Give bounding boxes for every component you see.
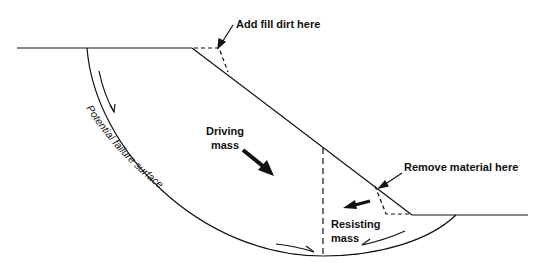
fill-wedge-dashed (194, 48, 228, 72)
failure-surface-text: Potential failure surface (84, 103, 166, 191)
driving-mass-label-line2: mass (211, 139, 239, 151)
remove-material-label: Remove material here (404, 161, 518, 173)
failure-arc (87, 48, 456, 256)
add-fill-label: Add fill dirt here (236, 18, 320, 30)
failure-surface-label: Potential failure surface (84, 103, 166, 191)
arc-arrow-right-icon (362, 231, 405, 245)
remove-material-arrowhead-icon (379, 181, 388, 188)
driving-arrow-icon (243, 150, 274, 176)
resisting-mass-label-line1: Resisting (331, 218, 381, 230)
removal-wedge-dashed (375, 186, 412, 214)
driving-mass-label-line1: Driving (206, 125, 244, 137)
resisting-mass-label-line2: mass (331, 232, 359, 244)
slope-stability-diagram: Add fill dirt here Driving mass Remove m… (0, 0, 545, 273)
arc-arrow-left-head (110, 104, 115, 112)
resisting-arrow-icon (343, 200, 370, 209)
